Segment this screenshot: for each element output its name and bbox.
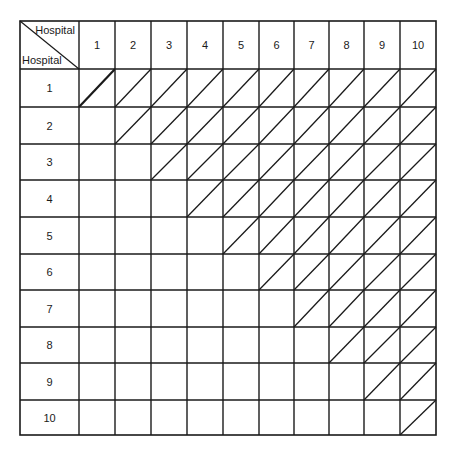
matrix-cell <box>151 327 187 363</box>
cell-background <box>294 363 329 400</box>
matrix-cell <box>259 400 294 435</box>
matrix-cell <box>329 144 364 180</box>
cell-background <box>79 180 115 217</box>
matrix-cell <box>259 107 294 144</box>
matrix-cell <box>115 290 151 327</box>
row-header-10: 10 <box>43 412 55 424</box>
cell-background <box>79 144 115 180</box>
matrix-cell <box>115 107 151 144</box>
row-header-2: 2 <box>46 120 52 132</box>
matrix-cell <box>329 217 364 254</box>
column-header-2: 2 <box>130 39 136 51</box>
row-header-9: 9 <box>46 376 52 388</box>
cell-background <box>151 180 187 217</box>
matrix-cell <box>400 144 436 180</box>
matrix-cell <box>294 254 329 290</box>
cell-background <box>329 363 364 400</box>
matrix-cells <box>79 69 436 435</box>
cell-background <box>223 400 259 435</box>
matrix-cell <box>294 180 329 217</box>
cell-background <box>79 327 115 363</box>
matrix-cell <box>400 217 436 254</box>
column-header-4: 4 <box>202 39 208 51</box>
cell-background <box>187 254 223 290</box>
cell-background <box>79 290 115 327</box>
row-header-1: 1 <box>46 82 52 94</box>
matrix-cell <box>364 144 400 180</box>
matrix-cell <box>294 400 329 435</box>
matrix-cell <box>79 363 115 400</box>
matrix-cell <box>294 217 329 254</box>
matrix-cell <box>294 363 329 400</box>
row-header-8: 8 <box>46 339 52 351</box>
matrix-cell <box>294 327 329 363</box>
cell-background <box>151 363 187 400</box>
column-header-8: 8 <box>343 39 349 51</box>
matrix-cell <box>400 180 436 217</box>
matrix-cell <box>115 400 151 435</box>
matrix-cell <box>294 144 329 180</box>
cell-background <box>187 217 223 254</box>
column-header-5: 5 <box>238 39 244 51</box>
matrix-cell <box>329 363 364 400</box>
matrix-cell <box>400 254 436 290</box>
matrix-cell <box>187 217 223 254</box>
cell-background <box>79 363 115 400</box>
matrix-cell <box>151 400 187 435</box>
matrix-cell <box>115 69 151 107</box>
cell-background <box>223 327 259 363</box>
cell-background <box>259 327 294 363</box>
matrix-cell <box>364 107 400 144</box>
matrix-cell <box>79 180 115 217</box>
matrix-cell <box>151 254 187 290</box>
corner-column-axis-label: Hospital <box>35 24 75 36</box>
column-header-7: 7 <box>308 39 314 51</box>
matrix-cell <box>187 107 223 144</box>
matrix-cell <box>400 400 436 435</box>
matrix-cell <box>329 400 364 435</box>
column-header-3: 3 <box>166 39 172 51</box>
column-header-1: 1 <box>94 39 100 51</box>
matrix-cell <box>151 180 187 217</box>
cell-background <box>259 290 294 327</box>
cell-background <box>79 217 115 254</box>
column-header-10: 10 <box>412 39 424 51</box>
cell-background <box>79 107 115 144</box>
matrix-cell <box>151 217 187 254</box>
matrix-cell <box>115 327 151 363</box>
matrix-cell <box>151 363 187 400</box>
cell-background <box>187 327 223 363</box>
matrix-cell <box>294 107 329 144</box>
matrix-cell <box>400 327 436 363</box>
matrix-cell <box>223 254 259 290</box>
cell-background <box>115 327 151 363</box>
cell-background <box>79 254 115 290</box>
cell-background <box>151 327 187 363</box>
cell-background <box>79 400 115 435</box>
cell-background <box>364 400 400 435</box>
matrix-cell <box>151 107 187 144</box>
corner-row-axis-label: Hospital <box>22 54 62 66</box>
matrix-cell <box>223 107 259 144</box>
matrix-cell <box>187 400 223 435</box>
cell-background <box>115 400 151 435</box>
cell-background <box>329 400 364 435</box>
matrix-cell <box>329 327 364 363</box>
cell-background <box>151 400 187 435</box>
matrix-cell <box>79 400 115 435</box>
matrix-cell <box>79 217 115 254</box>
matrix-cell <box>364 400 400 435</box>
matrix-cell <box>151 290 187 327</box>
matrix-cell <box>364 180 400 217</box>
matrix-cell <box>294 290 329 327</box>
cell-background <box>259 363 294 400</box>
matrix-cell <box>151 144 187 180</box>
cell-background <box>115 290 151 327</box>
column-header-9: 9 <box>379 39 385 51</box>
matrix-cell <box>79 107 115 144</box>
matrix-cell <box>79 327 115 363</box>
matrix-cell <box>187 363 223 400</box>
matrix-cell <box>115 180 151 217</box>
matrix-cell <box>223 400 259 435</box>
matrix-cell <box>364 363 400 400</box>
